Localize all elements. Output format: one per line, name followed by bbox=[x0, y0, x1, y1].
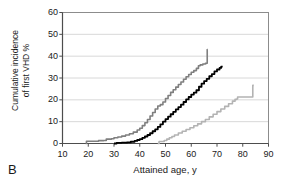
axis-ticks bbox=[59, 13, 268, 147]
data-curves bbox=[86, 50, 254, 144]
plot-area bbox=[0, 0, 281, 189]
figure-panel: Cumulative incidence of first VHD % 0102… bbox=[0, 0, 281, 189]
panel-letter: B bbox=[8, 162, 17, 177]
gridlines bbox=[63, 13, 269, 122]
x-axis-title: Attained age, y bbox=[62, 164, 268, 175]
